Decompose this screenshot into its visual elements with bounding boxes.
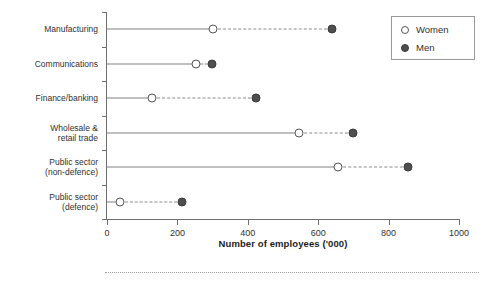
data-point-women[interactable]: [148, 94, 157, 103]
legend-label-men: Men: [416, 42, 434, 53]
x-axis-line: [106, 219, 459, 220]
stem-solid: [107, 63, 196, 64]
data-point-women[interactable]: [208, 25, 217, 34]
stem-dashed: [213, 29, 333, 30]
data-point-men[interactable]: [348, 128, 357, 137]
x-tick: [248, 219, 249, 225]
x-tick-label: 400: [240, 228, 255, 238]
data-point-men[interactable]: [328, 25, 337, 34]
open-circle-icon: [401, 26, 409, 34]
y-axis-label-finance-banking: Finance/banking: [6, 93, 98, 103]
data-point-women[interactable]: [192, 59, 201, 68]
legend-item-men[interactable]: Men: [401, 42, 434, 53]
y-tick: [102, 116, 107, 117]
stem-dashed: [152, 98, 256, 99]
filled-circle-icon: [401, 44, 409, 52]
category-row-finance-banking: Finance/banking: [107, 81, 459, 116]
data-point-men[interactable]: [207, 59, 216, 68]
x-tick-label: 600: [311, 228, 326, 238]
y-axis-label-wholesale-retail-trade: Wholesale & retail trade: [6, 123, 98, 143]
stem-solid: [107, 132, 299, 133]
x-tick: [107, 219, 108, 225]
stem-dashed: [120, 201, 182, 202]
category-row-wholesale-retail-trade: Wholesale & retail trade: [107, 116, 459, 151]
y-axis-label-communications: Communications: [6, 59, 98, 69]
x-tick: [389, 219, 390, 225]
y-tick: [102, 81, 107, 82]
x-tick: [459, 219, 460, 225]
bottom-dotted-rule: [105, 272, 479, 273]
chart-legend: Women Men: [391, 16, 475, 60]
data-point-men[interactable]: [178, 197, 187, 206]
data-point-women[interactable]: [116, 197, 125, 206]
x-tick-label: 0: [104, 228, 109, 238]
data-point-men[interactable]: [251, 94, 260, 103]
legend-item-women[interactable]: Women: [401, 24, 449, 35]
x-axis-title: Number of employees ('000): [107, 238, 459, 249]
legend-label-women: Women: [416, 24, 449, 35]
y-tick: [102, 47, 107, 48]
stem-dashed: [299, 132, 353, 133]
y-axis-label-public-sector-defence: Public sector (defence): [6, 192, 98, 212]
stem-solid: [107, 167, 338, 168]
dot-plot-chart: Manufacturing Communications Finance/ban…: [0, 0, 483, 282]
stem-dashed: [338, 167, 408, 168]
stem-solid: [107, 98, 152, 99]
y-tick: [102, 12, 107, 13]
x-tick-label: 800: [381, 228, 396, 238]
x-tick: [318, 219, 319, 225]
data-point-women[interactable]: [333, 163, 342, 172]
data-point-men[interactable]: [404, 163, 413, 172]
data-point-women[interactable]: [294, 128, 303, 137]
y-tick: [102, 150, 107, 151]
category-row-public-sector-defence: Public sector (defence): [107, 185, 459, 220]
y-tick: [102, 185, 107, 186]
x-tick-label: 200: [170, 228, 185, 238]
x-tick-label: 1000: [449, 228, 469, 238]
category-row-public-sector-non-defence: Public sector (non-defence): [107, 150, 459, 185]
x-tick: [177, 219, 178, 225]
y-axis-label-manufacturing: Manufacturing: [6, 24, 98, 34]
stem-solid: [107, 29, 213, 30]
y-axis-label-public-sector-non-defence: Public sector (non-defence): [6, 157, 98, 177]
